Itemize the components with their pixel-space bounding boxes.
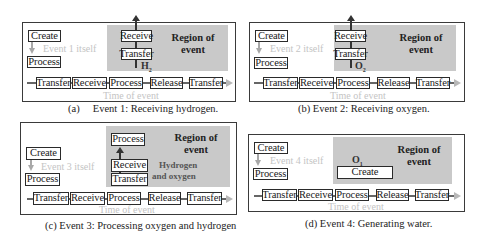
timeline-box-release: Release [376,189,409,201]
stack-box-receive-a: Receive [121,30,152,42]
stack-box-process-c: Process [111,133,145,146]
process-box-a: Process [27,56,61,68]
create-box-d: Create [254,142,288,154]
event-itself-label-c: Event 3 itself [41,161,94,172]
stack-box-receive-b: Receive [335,30,366,42]
timeline-arrow-icon [454,79,461,87]
timeline-box-receive: Receive [299,77,334,89]
timeline-box-receive: Receive [298,189,333,201]
time-of-event-label-a: Time of event [103,90,159,101]
timeline-box-receive: Receive [72,77,107,89]
timeline-box-transfer: Transfer [187,192,222,205]
region-label-c: Region of event [166,132,226,156]
timeline-box-transfer: Transfer [33,192,69,205]
caption-c: (c) Event 3: Processing oxygen and hydro… [45,220,236,231]
arrow-up-icon [132,15,140,21]
region-label-a: Region of event [160,32,226,56]
molecule-label-b: O2 [355,60,366,73]
region-create-box-d: Create [337,166,393,179]
timeline-box-transfer: Transfer [263,77,298,89]
timeline-arrow-icon [226,79,233,87]
timeline-box-transfer: Transfer [262,189,297,201]
molecule-label-a: H2 [141,60,152,73]
timeline-box-process: Process [109,77,143,89]
timeline-box-process: Process [336,77,370,89]
arrow-up-icon [347,15,355,21]
time-of-event-label-c: Time of event [99,204,155,215]
timeline-box-transfer: Transfer [416,77,450,89]
timeline-box-release: Release [150,77,183,89]
event-itself-label-d: Event 4 itself [270,155,323,166]
vertical-arrow-shaft-b [350,21,352,68]
stack-box-receive-c: Receive [111,159,148,172]
arrow-up-icon [116,147,124,153]
timeline-box-transfer: Transfer [36,77,71,89]
stack-box-transfer-c: Transfer [111,173,148,186]
timeline-box-release: Release [377,77,410,89]
arrow-down-icon [29,48,35,54]
arrow-down-icon [255,160,261,166]
create-box-a: Create [28,30,61,42]
stack-box-transfer-a: Transfer [121,48,152,60]
region-label-b: Region of event [388,32,454,56]
time-of-event-label-b: Time of event [330,90,386,101]
process-box-c: Process [25,173,60,186]
timeline-box-transfer: Transfer [189,77,223,89]
arrow-down-icon [256,48,262,54]
timeline-arrow-icon [226,195,233,203]
create-box-c: Create [26,147,61,160]
timeline-box-transfer: Transfer [415,189,449,201]
timeline-box-process: Process [335,189,369,201]
arrow-down-icon [28,165,34,171]
caption-d: (d) Event 4: Generating water. [305,218,432,229]
caption-a: (a) Event 1: Receiving hydrogen. [68,103,218,114]
caption-b: (b) Event 2: Receiving oxygen. [298,103,430,114]
event-itself-label-b: Event 2 itself [270,43,323,54]
vertical-arrow-shaft-a [135,21,137,68]
timeline-arrow-icon [454,192,461,200]
process-box-b: Process [254,57,288,69]
region-label-d: Region of event [386,144,452,168]
stack-box-transfer-b: Transfer [335,48,366,60]
event-itself-label-a: Event 1 itself [43,43,96,54]
create-box-b: Create [255,30,288,42]
gas-label-c: Hydrogen and oxygen [152,160,197,182]
time-of-event-label-d: Time of event [328,201,384,212]
process-box-d: Process [253,168,288,180]
